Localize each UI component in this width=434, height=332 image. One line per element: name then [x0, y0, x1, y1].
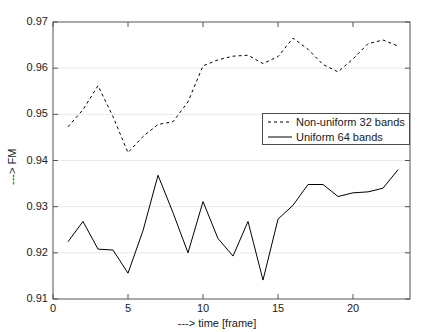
y-tick-label: 0.97 — [10, 15, 48, 27]
x-tick-label: 5 — [108, 302, 148, 314]
legend-entry-uniform: Uniform 64 bands — [263, 129, 409, 144]
x-axis-label: ---> time [frame] — [0, 317, 434, 329]
y-tick-label: 0.96 — [10, 61, 48, 73]
x-tick-label: 20 — [333, 302, 373, 314]
y-tick-label: 0.92 — [10, 246, 48, 258]
x-tick-label: 15 — [258, 302, 298, 314]
x-tick-label: 0 — [33, 302, 73, 314]
legend-label-uniform: Uniform 64 bands — [296, 131, 383, 143]
y-axis-label: ---> FM — [6, 148, 18, 184]
y-tick-label: 0.93 — [10, 200, 48, 212]
gridlines — [53, 68, 410, 253]
legend-entry-non-uniform: Non-uniform 32 bands — [263, 114, 409, 129]
legend-label-non-uniform: Non-uniform 32 bands — [296, 116, 405, 128]
chart-figure: 0.910.920.930.940.950.960.97 05101520 --… — [0, 0, 434, 332]
legend: Non-uniform 32 bands Uniform 64 bands — [262, 113, 410, 145]
chart-svg — [0, 0, 434, 332]
legend-swatch-solid — [267, 132, 293, 142]
series-line-uniform-64-bands — [68, 170, 398, 280]
legend-swatch-dashed — [267, 117, 293, 127]
y-tick-label: 0.95 — [10, 107, 48, 119]
x-tick-label: 10 — [183, 302, 223, 314]
